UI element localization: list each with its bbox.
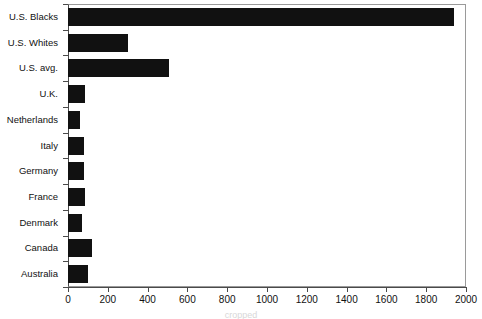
x-axis-tick: [227, 287, 228, 292]
x-axis-tick: [347, 287, 348, 292]
x-axis-tick: [68, 287, 69, 292]
bar: [68, 85, 85, 103]
x-axis-tick: [187, 287, 188, 292]
bar: [68, 137, 84, 155]
bar: [68, 59, 169, 77]
category-label: France: [0, 192, 58, 202]
category-label: Canada: [0, 243, 58, 253]
bar: [68, 111, 80, 129]
bar: [68, 8, 454, 26]
bar: [68, 34, 128, 52]
category-label: Germany: [0, 166, 58, 176]
bar: [68, 214, 82, 232]
bar: [68, 162, 84, 180]
bars-container: [68, 4, 466, 287]
bar: [68, 188, 85, 206]
x-axis-tick: [148, 287, 149, 292]
x-axis-tick: [307, 287, 308, 292]
bar-chart: U.S. Blacks U.S. Whites U.S. avg. U.K. N…: [0, 0, 482, 319]
bar: [68, 239, 92, 257]
x-axis-tick-label: 2000: [436, 294, 482, 305]
category-label: Netherlands: [0, 115, 58, 125]
x-axis-tick: [466, 287, 467, 292]
category-label: U.K.: [0, 89, 58, 99]
x-axis-tick: [267, 287, 268, 292]
category-label: Italy: [0, 141, 58, 151]
category-label: U.S. Whites: [0, 38, 58, 48]
category-label: Denmark: [0, 218, 58, 228]
x-axis-tick: [426, 287, 427, 292]
category-label: U.S. avg.: [0, 63, 58, 73]
figure-caption: cropped: [0, 310, 482, 319]
x-axis-tick: [386, 287, 387, 292]
category-axis-labels: U.S. Blacks U.S. Whites U.S. avg. U.K. N…: [0, 4, 62, 287]
bar: [68, 265, 88, 283]
x-axis-tick: [108, 287, 109, 292]
category-label: Australia: [0, 269, 58, 279]
category-label: U.S. Blacks: [0, 12, 58, 22]
